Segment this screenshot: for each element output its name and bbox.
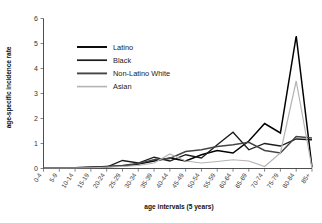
data-series-line-0: [44, 36, 313, 168]
x-tick-label: 70-74: [249, 171, 264, 189]
y-tick-label: 3: [34, 90, 38, 97]
legend-label-3: Asian: [113, 82, 132, 91]
x-tick-label: 15-19: [75, 171, 90, 189]
x-tick-label: 55-59: [202, 171, 217, 189]
data-series-group: [44, 36, 313, 168]
x-tick-label: 50-54: [186, 171, 201, 189]
y-tick-label: 2: [34, 115, 38, 122]
x-tick-label: 65-69: [233, 171, 248, 189]
x-tick-label: 45-49: [170, 171, 185, 189]
y-tick-label: 6: [34, 15, 38, 22]
y-tick-label: 1: [34, 140, 38, 147]
x-tick-label: 40-44: [154, 171, 169, 189]
x-tick-label: 80-84: [281, 171, 296, 189]
y-tick-label: 5: [34, 40, 38, 47]
y-axis-ticks: 0123456: [34, 15, 43, 172]
chart-figure: age-specific incidence rate 0123456 0-45…: [0, 0, 322, 223]
legend-label-2: Non-Latino White: [113, 69, 170, 78]
y-tick-label: 4: [34, 65, 38, 72]
x-tick-label: 30-34: [123, 171, 138, 189]
x-tick-label: 0-4: [32, 171, 43, 183]
x-tick-label: 85+: [300, 172, 312, 185]
x-tick-label: 60-64: [218, 171, 233, 189]
x-tick-label: 35-39: [139, 171, 154, 189]
data-series-line-2: [44, 137, 313, 169]
x-tick-label: 75-79: [265, 171, 280, 189]
x-axis-ticks: 0-45-910-1415-1920-2425-2930-3435-3940-4…: [32, 169, 312, 190]
x-axis-title: age intervals (5 years): [0, 203, 322, 210]
legend-label-1: Black: [113, 56, 131, 65]
data-series-line-1: [44, 132, 313, 168]
x-tick-label: 20-24: [91, 171, 106, 189]
legend-label-0: Latino: [113, 43, 133, 52]
x-tick-label: 25-29: [107, 171, 122, 189]
x-tick-label: 5-9: [48, 171, 59, 183]
y-tick-label: 0: [34, 165, 38, 172]
line-chart-plot: 0123456 0-45-910-1415-1920-2425-2930-343…: [0, 0, 322, 223]
chart-legend: LatinoBlackNon-Latino WhiteAsian: [77, 43, 170, 92]
x-tick-label: 10-14: [60, 171, 75, 189]
